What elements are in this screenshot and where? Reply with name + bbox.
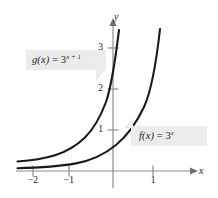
x-tick-label-minus2: −2 bbox=[26, 176, 40, 186]
label-f-arg: (x) bbox=[142, 130, 154, 141]
label-g-exp: x + 1 bbox=[66, 53, 81, 60]
x-axis-arrowhead bbox=[190, 167, 198, 174]
label-g-arg: (x) bbox=[37, 54, 49, 65]
y-axis-label: y bbox=[114, 12, 118, 22]
y-tick-label-1: 1 bbox=[96, 125, 105, 135]
exponential-functions-figure: y x −2 −1 1 1 2 3 g(x) = 3x + 1 f(x) = 3… bbox=[0, 0, 218, 198]
label-f-eq: = 3 bbox=[154, 130, 171, 141]
function-label-g-text: g(x) = 3x + 1 bbox=[32, 55, 81, 66]
label-g-eq: = 3 bbox=[49, 54, 66, 65]
function-label-g: g(x) = 3x + 1 bbox=[26, 50, 106, 70]
x-tick-label-minus1: −1 bbox=[62, 176, 76, 186]
plot-canvas bbox=[0, 0, 218, 198]
x-axis-label: x bbox=[199, 166, 203, 176]
x-tick-label-1: 1 bbox=[147, 176, 159, 186]
function-label-f-text: f(x) = 3x bbox=[139, 131, 174, 142]
callout-pointer-g bbox=[96, 70, 105, 81]
function-label-f: f(x) = 3x bbox=[131, 126, 207, 146]
label-f-exp: x bbox=[171, 129, 174, 136]
y-tick-label-2: 2 bbox=[96, 84, 105, 94]
